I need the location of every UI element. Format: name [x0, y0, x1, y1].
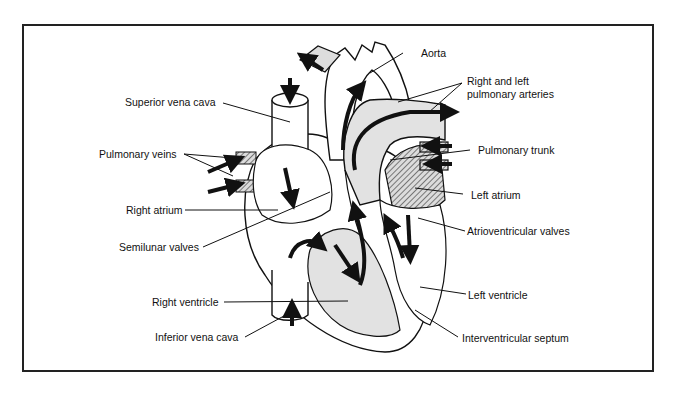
- heart-illustration: [0, 0, 676, 393]
- label-semilunar-valves: Semilunar valves: [119, 241, 199, 253]
- label-left-atrium: Left atrium: [471, 189, 521, 201]
- label-aorta: Aorta: [421, 47, 446, 59]
- label-pulmonary-veins: Pulmonary veins: [99, 148, 177, 160]
- label-pulmonary-trunk: Pulmonary trunk: [478, 144, 554, 156]
- label-superior-vena-cava: Superior vena cava: [125, 96, 215, 108]
- label-left-ventricle: Left ventricle: [468, 289, 528, 301]
- left-atrium-chamber: [385, 142, 448, 212]
- label-inferior-vena-cava: Inferior vena cava: [155, 331, 238, 343]
- label-pulmonary-arteries-line2: pulmonary arteries: [467, 88, 554, 100]
- label-interventricular-septum: Interventricular septum: [462, 332, 569, 344]
- label-right-atrium: Right atrium: [126, 204, 183, 216]
- label-pulmonary-arteries-line1: Right and left: [467, 75, 529, 87]
- label-atrioventricular-valves: Atrioventricular valves: [467, 225, 570, 237]
- label-right-ventricle: Right ventricle: [152, 296, 219, 308]
